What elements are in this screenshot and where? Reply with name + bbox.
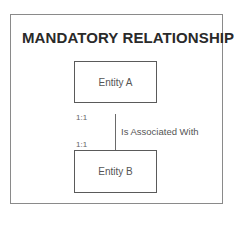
- entity-a-box: Entity A: [74, 61, 157, 103]
- relationship-line: [115, 114, 116, 150]
- entity-b-label: Entity B: [98, 166, 132, 177]
- relationship-label: Is Associated With: [121, 126, 199, 137]
- cardinality-a: 1:1: [76, 113, 87, 122]
- entity-a-label: Entity A: [99, 77, 133, 88]
- entity-b-box: Entity B: [74, 150, 157, 193]
- cardinality-b: 1:1: [76, 140, 87, 149]
- diagram-title: MANDATORY RELATIONSHIP: [22, 29, 234, 46]
